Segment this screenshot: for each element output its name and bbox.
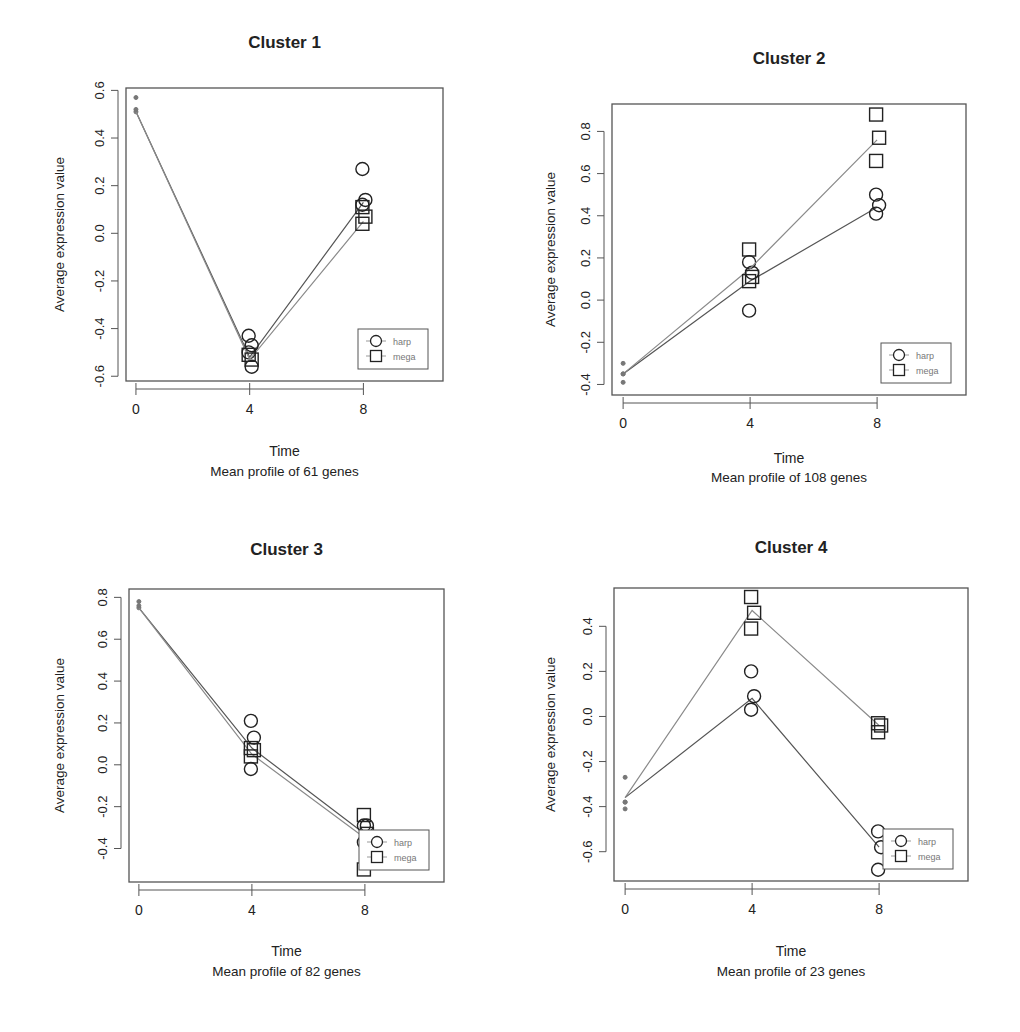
- y-tick-label: 0.4: [92, 129, 107, 147]
- chart-panel-1: Cluster 1-0.6-0.4-0.20.00.20.40.6048Time…: [52, 33, 443, 479]
- legend-square-icon: [371, 351, 382, 362]
- legend-label: harp: [916, 351, 934, 361]
- y-tick-label: 0.0: [92, 224, 107, 242]
- replicate-circle: [356, 162, 369, 175]
- chart-subtitle: Mean profile of 108 genes: [711, 470, 867, 485]
- replicate-dot: [623, 800, 627, 804]
- y-tick-label: 0.6: [578, 165, 593, 183]
- legend-label: mega: [916, 366, 939, 376]
- y-axis: -0.6-0.4-0.20.00.20.40.6: [92, 81, 118, 387]
- y-tick-label: -0.4: [92, 317, 107, 339]
- y-tick-label: 0.2: [95, 714, 110, 732]
- y-axis-label: Average expression value: [543, 657, 558, 812]
- x-axis-label: Time: [271, 943, 302, 959]
- series-mega: [621, 108, 885, 376]
- replicate-dot: [621, 380, 625, 384]
- chart-subtitle: Mean profile of 61 genes: [210, 464, 359, 479]
- y-tick-label: -0.2: [580, 750, 595, 772]
- chart-title: Cluster 1: [248, 33, 321, 52]
- legend-square-icon: [372, 852, 383, 863]
- y-tick-label: -0.2: [95, 795, 110, 817]
- replicate-circle: [244, 714, 257, 727]
- x-tick-label: 8: [361, 902, 369, 918]
- x-axis: 048: [619, 397, 881, 431]
- y-tick-label: -0.4: [578, 373, 593, 395]
- y-tick-label: 0.6: [95, 630, 110, 648]
- y-tick-label: 0.4: [580, 617, 595, 635]
- x-tick-label: 8: [873, 415, 881, 431]
- replicate-dot: [137, 604, 141, 608]
- chart-title: Cluster 2: [753, 49, 826, 68]
- legend-label: mega: [918, 852, 941, 862]
- x-axis-label: Time: [774, 450, 805, 466]
- replicate-dot: [134, 96, 138, 100]
- chart-title: Cluster 4: [755, 538, 828, 557]
- y-tick-label: -0.2: [92, 270, 107, 292]
- mean-line: [625, 611, 879, 798]
- replicate-dot: [623, 807, 627, 811]
- mean-line: [136, 112, 363, 357]
- x-tick-label: 0: [132, 401, 140, 417]
- y-tick-label: 0.8: [95, 588, 110, 606]
- y-tick-label: 0.4: [95, 672, 110, 690]
- y-tick-label: -0.6: [580, 840, 595, 862]
- replicate-square: [743, 243, 756, 256]
- x-tick-label: 4: [748, 901, 756, 917]
- y-tick-label: -0.4: [580, 795, 595, 817]
- legend: harpmega: [883, 829, 953, 869]
- replicate-square: [745, 622, 758, 635]
- x-axis: 048: [135, 884, 369, 918]
- y-tick-label: 0.6: [92, 81, 107, 99]
- legend-circle-icon: [372, 837, 383, 848]
- mean-line: [625, 698, 879, 847]
- legend: harpmega: [358, 329, 428, 369]
- replicate-square: [745, 591, 758, 604]
- legend: harpmega: [359, 830, 429, 870]
- chart-panel-2: Cluster 2-0.4-0.20.00.20.40.60.8048TimeM…: [543, 49, 966, 485]
- mean-line: [136, 112, 363, 360]
- chart-subtitle: Mean profile of 82 genes: [212, 964, 361, 979]
- legend-square-icon: [894, 365, 905, 376]
- series-harp: [134, 96, 372, 374]
- replicate-circle: [870, 207, 883, 220]
- y-tick-label: 0.2: [578, 249, 593, 267]
- chart-title: Cluster 3: [250, 540, 323, 559]
- x-tick-label: 0: [619, 415, 627, 431]
- figure-canvas: Cluster 1-0.6-0.4-0.20.00.20.40.6048Time…: [0, 0, 1020, 1032]
- replicate-dot: [621, 361, 625, 365]
- mean-line: [139, 608, 365, 838]
- y-tick-label: 0.0: [580, 707, 595, 725]
- y-axis: -0.4-0.20.00.20.40.60.8: [95, 588, 121, 859]
- y-tick-label: -0.6: [92, 365, 107, 387]
- chart-panel-4: Cluster 4-0.6-0.4-0.20.00.20.4048TimeMea…: [543, 538, 968, 979]
- x-tick-label: 4: [248, 902, 256, 918]
- series-mega: [137, 604, 374, 876]
- y-axis: -0.4-0.20.00.20.40.60.8: [578, 122, 604, 395]
- chart-panel-3: Cluster 3-0.4-0.20.00.20.40.60.8048TimeM…: [52, 540, 444, 979]
- replicate-dot: [134, 107, 138, 111]
- x-axis-label: Time: [269, 443, 300, 459]
- y-axis-label: Average expression value: [52, 157, 67, 312]
- series-mega: [623, 591, 887, 805]
- y-tick-label: -0.4: [95, 837, 110, 859]
- legend-label: harp: [393, 337, 411, 347]
- mean-line: [139, 608, 365, 834]
- legend-label: mega: [393, 352, 416, 362]
- cluster-profiles-figure: Cluster 1-0.6-0.4-0.20.00.20.40.6048Time…: [0, 0, 1020, 1032]
- y-axis: -0.6-0.4-0.20.00.20.4: [580, 617, 606, 863]
- replicate-square: [870, 154, 883, 167]
- x-tick-label: 0: [135, 902, 143, 918]
- legend-label: mega: [394, 853, 417, 863]
- x-tick-label: 4: [746, 415, 754, 431]
- x-tick-label: 8: [359, 401, 367, 417]
- replicate-circle: [745, 665, 758, 678]
- y-tick-label: 0.2: [580, 662, 595, 680]
- series-mega: [134, 107, 372, 366]
- legend: harpmega: [881, 343, 951, 383]
- replicate-square: [870, 108, 883, 121]
- legend-square-icon: [896, 851, 907, 862]
- replicate-circle: [745, 703, 758, 716]
- y-axis-label: Average expression value: [543, 172, 558, 327]
- x-tick-label: 4: [246, 401, 254, 417]
- x-axis: 048: [621, 883, 883, 917]
